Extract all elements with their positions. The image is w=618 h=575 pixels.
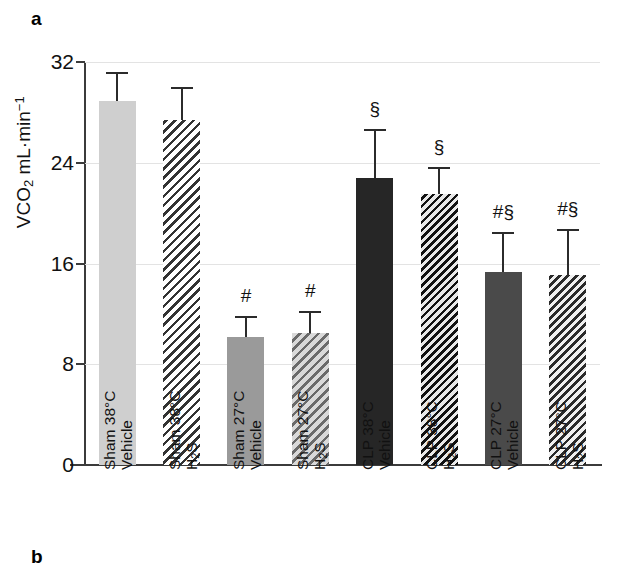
error-bar-cap bbox=[106, 72, 128, 74]
x-tick-label-text: CLP 27°CVehicle bbox=[487, 360, 521, 470]
significance-marker: #§ bbox=[473, 202, 533, 221]
x-tick-label-line1: CLP 27°C bbox=[487, 360, 504, 470]
error-bar-stem bbox=[245, 316, 247, 336]
significance-marker: # bbox=[280, 281, 340, 300]
plot-area: ##§§#§#§ bbox=[85, 62, 600, 465]
y-tick-label: 24 bbox=[14, 152, 74, 173]
error-bar-cap bbox=[364, 129, 386, 131]
y-tick-label: 16 bbox=[14, 253, 74, 274]
error-bar-cap bbox=[557, 229, 579, 231]
x-tick-label-line2: H2S bbox=[569, 360, 590, 470]
x-tick-label-line2: H2S bbox=[183, 360, 204, 470]
error-bar-cap bbox=[492, 232, 514, 234]
x-tick-label-subscript: 2 bbox=[575, 453, 587, 459]
error-bar-cap bbox=[171, 87, 193, 89]
x-tick-label-line1: CLP 27°C bbox=[552, 360, 569, 470]
significance-marker: § bbox=[345, 99, 405, 118]
x-tick-label-line2: Vehicle bbox=[504, 360, 521, 470]
x-tick-label: CLP 27°CH2S bbox=[552, 470, 618, 490]
y-axis-tick-labels: 08162432 bbox=[8, 0, 74, 575]
error-bar-stem bbox=[502, 232, 504, 272]
error-bar-stem bbox=[181, 87, 183, 120]
error-bar-cap bbox=[299, 311, 321, 313]
y-tick-mark bbox=[76, 363, 85, 365]
error-bar-stem bbox=[374, 129, 376, 178]
y-tick-mark bbox=[76, 61, 85, 63]
x-tick-label-text: Sham 38°CH2S bbox=[166, 360, 204, 470]
significance-marker: # bbox=[216, 286, 276, 305]
figure-panel-a: a b VCO2 mL·min−1 08162432 ##§§#§#§ Sham… bbox=[0, 0, 618, 575]
significance-marker: § bbox=[409, 137, 469, 156]
x-tick-label-text: CLP 38°CVehicle bbox=[359, 360, 393, 470]
x-tick-label-text: CLP 38°CH2S bbox=[423, 360, 461, 470]
significance-marker: #§ bbox=[538, 199, 598, 218]
x-tick-label-line1: Sham 27°C bbox=[230, 360, 247, 470]
x-tick-label-line2: Vehicle bbox=[118, 360, 135, 470]
y-tick-label: 8 bbox=[14, 353, 74, 374]
x-tick-label-line1: CLP 38°C bbox=[359, 360, 376, 470]
x-tick-label-line2: H2S bbox=[311, 360, 332, 470]
x-tick-label-text: Sham 27°CH2S bbox=[294, 360, 332, 470]
x-tick-label-line1: Sham 38°C bbox=[101, 360, 118, 470]
x-tick-label-subscript: 2 bbox=[189, 453, 201, 459]
x-tick-label-line1: Sham 38°C bbox=[166, 360, 183, 470]
error-bar-stem bbox=[309, 311, 311, 332]
x-tick-label-line1: CLP 38°C bbox=[423, 360, 440, 470]
x-tick-label-line2: Vehicle bbox=[376, 360, 393, 470]
y-tick-mark bbox=[76, 162, 85, 164]
error-bar-cap bbox=[235, 316, 257, 318]
y-tick-mark bbox=[76, 263, 85, 265]
error-bar-cap bbox=[428, 167, 450, 169]
x-tick-label-text: CLP 27°CH2S bbox=[552, 360, 590, 470]
y-tick-label: 32 bbox=[14, 51, 74, 72]
x-tick-label-subscript: 2 bbox=[318, 453, 330, 459]
error-bar-stem bbox=[438, 167, 440, 195]
x-tick-label-subscript: 2 bbox=[446, 453, 458, 459]
x-tick-label-text: Sham 38°CVehicle bbox=[101, 360, 135, 470]
error-bar-stem bbox=[116, 72, 118, 101]
error-bar-stem bbox=[567, 229, 569, 274]
x-tick-label-text: Sham 27°CVehicle bbox=[230, 360, 264, 470]
x-tick-label-line1: Sham 27°C bbox=[294, 360, 311, 470]
x-tick-label-line2: Vehicle bbox=[247, 360, 264, 470]
y-tick-label: 0 bbox=[14, 454, 74, 475]
x-tick-label-line2: H2S bbox=[440, 360, 461, 470]
y-tick-mark bbox=[76, 464, 85, 466]
